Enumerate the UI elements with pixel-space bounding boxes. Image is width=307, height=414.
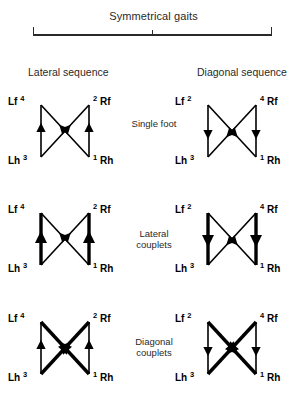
label-left-hind: Lh 3	[8, 261, 27, 274]
vertical-arrow-right	[251, 322, 260, 374]
vertical-arrow-right	[251, 105, 260, 157]
label-right-hind: 1 Rh	[93, 261, 113, 274]
diagonal-arrow-lh-to-rf	[41, 322, 89, 374]
footfall-number: 4	[260, 311, 264, 320]
limb-abbrev: Rf	[100, 96, 111, 107]
diagonal-arrow-lf-to-rh	[208, 322, 256, 374]
limb-abbrev: Lh	[8, 155, 20, 166]
label-right-hind: 1 Rh	[260, 153, 280, 166]
footfall-number: 2	[93, 94, 97, 103]
limb-abbrev: Rf	[100, 204, 111, 215]
gait-diagram	[35, 213, 95, 265]
gait-diagram	[202, 213, 262, 265]
gait-diagram	[36, 322, 93, 374]
label-left-fore: Lf 4	[8, 202, 24, 215]
label-right-hind: 1 Rh	[260, 261, 280, 274]
limb-abbrev: Lh	[175, 263, 187, 274]
diagonal-arrow-rf-to-lh	[208, 105, 256, 157]
footfall-number: 1	[93, 261, 97, 270]
limb-abbrev: Lf	[175, 96, 184, 107]
footfall-number: 2	[187, 202, 191, 211]
limb-abbrev: Rf	[100, 313, 111, 324]
label-left-hind: Lh 3	[175, 261, 194, 274]
vertical-arrow-right	[250, 213, 262, 265]
limb-abbrev: Lf	[175, 204, 184, 215]
vertical-arrow-left	[36, 105, 45, 157]
label-left-fore: Lf 2	[175, 311, 191, 324]
label-right-fore: 2 Rf	[93, 311, 111, 324]
diagonal-arrow-lf-to-rh	[208, 213, 256, 265]
vertical-arrow-right	[84, 322, 93, 374]
vertical-arrow-right	[84, 105, 93, 157]
row-caption-single-foot: Single foot	[115, 118, 193, 129]
gait-diagram	[203, 322, 260, 374]
limb-abbrev: Lf	[8, 313, 17, 324]
footfall-number: 4	[20, 311, 24, 320]
label-left-hind: Lh 3	[175, 153, 194, 166]
diagonal-arrow-lh-to-rf	[41, 213, 89, 265]
label-right-hind: 1 Rh	[260, 370, 280, 383]
footfall-number: 1	[93, 370, 97, 379]
label-left-fore: Lf 2	[175, 202, 191, 215]
footfall-number: 3	[23, 261, 27, 270]
vertical-arrow-left	[35, 213, 47, 265]
limb-abbrev: Rh	[267, 263, 280, 274]
gait-diagram	[36, 105, 93, 157]
column-header-diagonal-sequence: Diagonal sequence	[197, 66, 287, 78]
diagonal-arrow-rh-to-lf	[41, 213, 89, 265]
limb-abbrev: Rh	[100, 155, 113, 166]
diagonal-arrow-lh-to-rf	[41, 105, 89, 157]
footfall-number: 3	[190, 261, 194, 270]
footfall-number: 1	[260, 153, 264, 162]
footfall-number: 2	[187, 311, 191, 320]
diagonal-arrow-lf-to-rh	[208, 105, 256, 157]
footfall-number: 3	[190, 370, 194, 379]
limb-abbrev: Lf	[8, 204, 17, 215]
label-right-fore: 4 Rf	[260, 202, 278, 215]
vertical-arrow-left	[202, 213, 214, 265]
limb-abbrev: Lf	[175, 313, 184, 324]
symmetrical-gaits-figure: Symmetrical gaits Lateral sequence Diago…	[0, 0, 307, 414]
label-left-fore: Lf 2	[175, 94, 191, 107]
bracket-caption: Symmetrical gaits	[0, 10, 307, 22]
limb-abbrev: Rh	[267, 155, 280, 166]
limb-abbrev: Lh	[8, 263, 20, 274]
footfall-number: 4	[20, 94, 24, 103]
limb-abbrev: Lh	[175, 155, 187, 166]
limb-abbrev: Rf	[267, 313, 278, 324]
column-header-lateral-sequence: Lateral sequence	[28, 66, 109, 78]
footfall-number: 2	[187, 94, 191, 103]
limb-abbrev: Lf	[8, 96, 17, 107]
limb-abbrev: Lh	[175, 372, 187, 383]
diagonal-arrow-rh-to-lf	[41, 105, 89, 157]
vertical-arrow-left	[203, 105, 212, 157]
label-right-fore: 4 Rf	[260, 311, 278, 324]
vertical-arrow-left	[203, 322, 212, 374]
footfall-number: 3	[23, 370, 27, 379]
limb-abbrev: Lh	[8, 372, 20, 383]
label-right-fore: 4 Rf	[260, 94, 278, 107]
footfall-number: 4	[20, 202, 24, 211]
footfall-number: 4	[260, 94, 264, 103]
footfall-number: 2	[93, 311, 97, 320]
vertical-arrow-left	[36, 322, 45, 374]
limb-abbrev: Rh	[267, 372, 280, 383]
limb-abbrev: Rf	[267, 204, 278, 215]
label-left-fore: Lf 4	[8, 94, 24, 107]
footfall-number: 3	[23, 153, 27, 162]
footfall-number: 1	[260, 261, 264, 270]
label-right-hind: 1 Rh	[93, 153, 113, 166]
footfall-number: 2	[93, 202, 97, 211]
footfall-number: 4	[260, 202, 264, 211]
limb-abbrev: Rf	[267, 96, 278, 107]
diagonal-arrow-rf-to-lh	[208, 322, 256, 374]
footfall-number: 1	[260, 370, 264, 379]
row-caption-lateral-couplets: Lateral couplets	[115, 228, 193, 250]
row-caption-diagonal-couplets: Diagonal couplets	[115, 336, 193, 358]
label-right-fore: 2 Rf	[93, 94, 111, 107]
label-left-fore: Lf 4	[8, 311, 24, 324]
label-right-hind: 1 Rh	[93, 370, 113, 383]
footfall-number: 3	[190, 153, 194, 162]
footfall-number: 1	[93, 153, 97, 162]
label-left-hind: Lh 3	[8, 370, 27, 383]
